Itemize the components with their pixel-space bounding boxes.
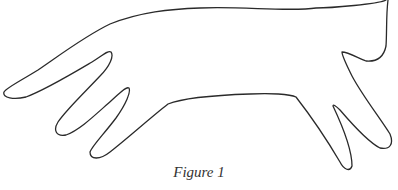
hand-outline-path <box>4 0 392 169</box>
hand-outline-drawing <box>0 0 398 190</box>
figure-caption: Figure 1 <box>0 164 398 181</box>
